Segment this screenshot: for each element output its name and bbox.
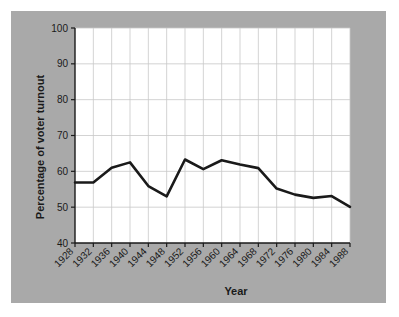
x-tick-label-1952: 1952: [162, 245, 186, 269]
x-tick-label-1988: 1988: [327, 245, 351, 269]
y-tick-label-70: 70: [57, 130, 69, 141]
y-tick-label-60: 60: [57, 166, 69, 177]
x-tick-label-1944: 1944: [125, 245, 149, 269]
y-tick-label-50: 50: [57, 202, 69, 213]
x-tick-label-1956: 1956: [180, 245, 204, 269]
x-tick-label-1972: 1972: [254, 245, 278, 269]
x-tick-label-1976: 1976: [272, 245, 296, 269]
x-tick-label-1968: 1968: [235, 245, 259, 269]
x-tick-label-1928: 1928: [52, 245, 76, 269]
y-tick-label-90: 90: [57, 58, 69, 69]
x-tick-label-1940: 1940: [107, 245, 131, 269]
x-tick-label-1948: 1948: [144, 245, 168, 269]
y-axis-title: Percentage of voter turnout: [34, 75, 46, 220]
x-tick-label-1984: 1984: [309, 245, 333, 269]
line-chart: 405060708090100 192819321936194019441948…: [0, 0, 399, 317]
y-axis-ticks: 405060708090100: [51, 23, 75, 249]
y-tick-label-100: 100: [51, 23, 68, 34]
y-tick-label-80: 80: [57, 94, 69, 105]
chart-figure: 405060708090100 192819321936194019441948…: [0, 0, 399, 317]
x-tick-label-1932: 1932: [70, 245, 94, 269]
x-axis-ticks: 1928193219361940194419481952195619601964…: [52, 243, 351, 269]
x-tick-label-1964: 1964: [217, 245, 241, 269]
x-axis-title: Year: [224, 285, 248, 297]
x-tick-label-1980: 1980: [290, 245, 314, 269]
x-tick-label-1960: 1960: [199, 245, 223, 269]
x-tick-label-1936: 1936: [89, 245, 113, 269]
